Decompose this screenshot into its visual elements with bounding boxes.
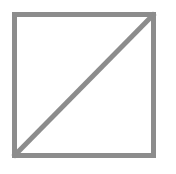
square-with-diagonal-icon (0, 0, 176, 174)
figure-canvas (0, 0, 176, 174)
